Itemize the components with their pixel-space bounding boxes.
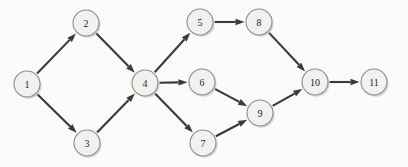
edge-line <box>96 33 128 66</box>
graph-node-4[interactable]: 4 <box>132 70 160 98</box>
graph-edge-4-to-5 <box>155 33 191 72</box>
graph-node-5[interactable]: 5 <box>187 9 215 37</box>
graph-edge-1-to-2 <box>37 33 76 73</box>
node-circle[interactable] <box>246 9 272 35</box>
nodes-layer: 1234567891011 <box>14 9 389 158</box>
graph-diagram-canvas: 1234567891011 <box>0 0 408 167</box>
edge-line <box>216 124 239 136</box>
edge-arrowhead-icon <box>236 19 245 25</box>
edge-arrowhead-icon <box>293 89 302 96</box>
node-circle[interactable] <box>14 71 40 97</box>
node-circle[interactable] <box>247 100 273 126</box>
graph-node-11[interactable]: 11 <box>361 69 389 97</box>
node-circle[interactable] <box>73 10 99 36</box>
graph-node-3[interactable]: 3 <box>74 130 102 158</box>
graph-edge-1-to-3 <box>37 94 76 133</box>
graph-node-10[interactable]: 10 <box>302 69 330 97</box>
node-circle[interactable] <box>190 130 216 156</box>
graph-node-2[interactable]: 2 <box>73 10 101 38</box>
node-circle[interactable] <box>361 69 387 95</box>
graph-edge-8-to-10 <box>269 33 305 72</box>
edge-line <box>273 94 295 106</box>
graph-svg: 1234567891011 <box>0 0 408 167</box>
node-circle[interactable] <box>187 9 213 35</box>
edge-arrowhead-icon <box>351 79 360 85</box>
edge-line <box>97 100 129 133</box>
graph-node-1[interactable]: 1 <box>14 71 42 99</box>
edge-line <box>37 94 70 126</box>
node-circle[interactable] <box>302 69 328 95</box>
graph-node-6[interactable]: 6 <box>189 69 217 97</box>
graph-edge-5-to-8 <box>215 19 245 25</box>
edge-line <box>155 93 187 126</box>
graph-edge-9-to-10 <box>273 89 303 106</box>
edge-line <box>155 39 185 72</box>
graph-node-8[interactable]: 8 <box>246 9 274 37</box>
edge-line <box>37 40 70 74</box>
graph-edge-4-to-7 <box>155 93 193 132</box>
edge-arrowhead-icon <box>178 79 187 85</box>
graph-edge-10-to-11 <box>330 79 360 85</box>
graph-edge-3-to-4 <box>97 93 135 132</box>
node-circle[interactable] <box>132 70 158 96</box>
edge-line <box>269 33 299 65</box>
edge-arrowhead-icon <box>238 120 247 127</box>
graph-edge-6-to-9 <box>215 89 247 106</box>
node-circle[interactable] <box>189 69 215 95</box>
graph-edge-7-to-9 <box>216 120 247 137</box>
graph-node-9[interactable]: 9 <box>247 100 275 128</box>
node-circle[interactable] <box>74 130 100 156</box>
graph-edge-2-to-4 <box>96 33 135 72</box>
edge-arrowhead-icon <box>238 99 247 106</box>
edge-line <box>215 89 239 102</box>
graph-edge-4-to-6 <box>160 79 188 85</box>
graph-node-7[interactable]: 7 <box>190 130 218 158</box>
